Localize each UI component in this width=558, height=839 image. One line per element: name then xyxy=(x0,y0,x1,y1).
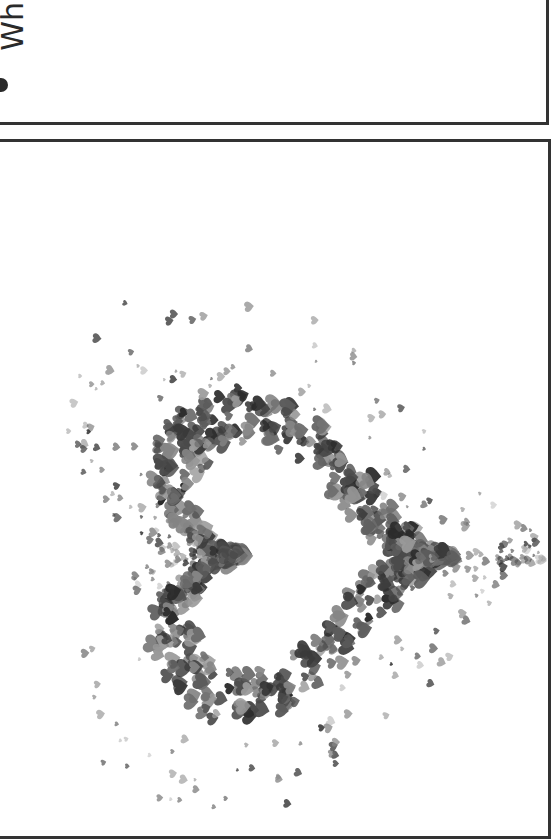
heart-particle-icon xyxy=(118,738,122,743)
heart-particle-icon xyxy=(192,785,200,794)
heart-particle-icon xyxy=(168,769,177,779)
heart-particle-icon xyxy=(313,407,317,411)
heart-particle-icon xyxy=(270,370,277,377)
heart-particle-icon xyxy=(344,709,353,719)
heart-particle-icon xyxy=(99,467,105,473)
heart-particle-icon xyxy=(182,559,190,567)
heart-particle-icon xyxy=(298,680,312,695)
heart-particle-icon xyxy=(273,443,285,455)
heart-particle-icon xyxy=(429,643,438,653)
heart-particle-icon xyxy=(374,397,381,404)
heart-particle-icon xyxy=(460,506,466,512)
heart-particle-icon xyxy=(117,494,124,502)
heart-particle-icon xyxy=(208,383,213,388)
heart-particle-icon xyxy=(137,502,148,513)
heart-particle-icon xyxy=(69,397,80,408)
heart-particle-icon xyxy=(169,375,178,384)
heart-particle-icon xyxy=(397,403,406,413)
heart-particle-icon xyxy=(147,753,152,758)
heart-particle-icon xyxy=(154,527,160,534)
heart-particle-icon xyxy=(211,804,217,810)
heart-particle-icon xyxy=(400,646,404,651)
heart-particle-icon xyxy=(112,442,121,451)
heart-particle-icon xyxy=(438,514,449,525)
heart-particle-icon xyxy=(537,551,541,555)
heart-particle-icon xyxy=(295,453,306,465)
heart-particle-icon xyxy=(245,344,255,354)
heart-particle-icon xyxy=(193,778,196,782)
heart-particle-icon xyxy=(139,531,144,536)
heart-particle-icon xyxy=(110,491,116,498)
heart-particle-icon xyxy=(163,378,166,381)
heart-particle-icon xyxy=(103,495,110,503)
heart-particle-icon xyxy=(169,797,173,801)
heart-particle-icon xyxy=(139,473,143,477)
heart-particle-icon xyxy=(312,342,319,350)
heart-particle-icon xyxy=(367,413,376,423)
heart-particle-icon xyxy=(100,759,107,766)
heart-particle-icon xyxy=(283,799,292,809)
heart-particle-icon xyxy=(426,496,434,505)
heart-particle-icon xyxy=(464,564,473,574)
heart-particle-icon xyxy=(391,671,400,680)
heart-particle-icon xyxy=(138,657,142,661)
heart-particle-icon xyxy=(378,654,384,661)
heart-particle-icon xyxy=(89,381,95,387)
heart-particle-icon xyxy=(94,680,102,688)
heart-particle-icon xyxy=(422,447,426,452)
heart-particle-icon xyxy=(94,387,98,391)
heart-particle-icon xyxy=(483,575,487,580)
heart-particle-icon xyxy=(368,436,372,440)
heart-particle-icon xyxy=(478,491,483,496)
heart-particle-icon xyxy=(105,365,116,376)
heart-particle-icon xyxy=(298,387,306,396)
heart-particle-icon xyxy=(188,315,197,325)
heart-particle-icon xyxy=(474,593,479,598)
heart-particle-icon xyxy=(394,635,403,645)
heart-particle-icon xyxy=(92,694,97,700)
heart-particle-icon xyxy=(170,309,178,318)
heart-particle-icon xyxy=(447,592,455,600)
heart-particle-icon xyxy=(140,366,148,375)
heart-particle-icon xyxy=(414,652,421,660)
heart-particle-icon xyxy=(96,709,106,720)
heart-particle-icon xyxy=(529,528,532,532)
heart-particle-icon xyxy=(136,364,140,368)
heart-particle-icon xyxy=(174,369,178,373)
heart-particle-icon xyxy=(92,333,102,344)
heart-particle-icon xyxy=(156,794,163,802)
heart-particle-icon xyxy=(433,627,440,635)
heart-particle-icon xyxy=(420,500,430,510)
heart-particle-icon xyxy=(466,551,475,560)
heart-particle-icon xyxy=(349,352,357,361)
heart-particle-icon xyxy=(436,656,447,668)
heart-particle-icon xyxy=(307,383,311,388)
heart-particle-icon xyxy=(122,300,129,307)
heart-particle-icon xyxy=(311,316,319,325)
heart-particle-icon xyxy=(123,736,129,742)
heart-particle-icon xyxy=(293,767,303,778)
heart-particle-icon xyxy=(127,348,135,356)
heart-particle-icon xyxy=(314,359,318,363)
heart-particle-icon xyxy=(352,361,356,366)
heart-particle-icon xyxy=(125,763,130,768)
heart-particle-icon xyxy=(490,501,498,509)
heart-particle-icon xyxy=(416,661,424,670)
heart-particle-icon xyxy=(500,571,509,580)
heart-particle-icon xyxy=(131,442,139,450)
heart-particle-icon xyxy=(333,760,339,767)
heart-particle-icon xyxy=(398,491,408,501)
heart-particle-icon xyxy=(421,428,427,434)
heart-particle-icon xyxy=(445,651,455,662)
heart-particle-icon xyxy=(170,749,175,754)
heart-particle-icon xyxy=(180,734,190,745)
heart-particle-icon xyxy=(244,301,255,313)
heart-particle-icon xyxy=(403,465,411,474)
heart-particle-icon xyxy=(426,678,436,688)
heart-particle-icon xyxy=(89,645,97,653)
heart-particle-icon xyxy=(92,443,101,453)
heart-particle-icon xyxy=(140,515,144,519)
heart-particle-icon xyxy=(486,600,492,607)
heart-particle-icon xyxy=(177,797,183,803)
